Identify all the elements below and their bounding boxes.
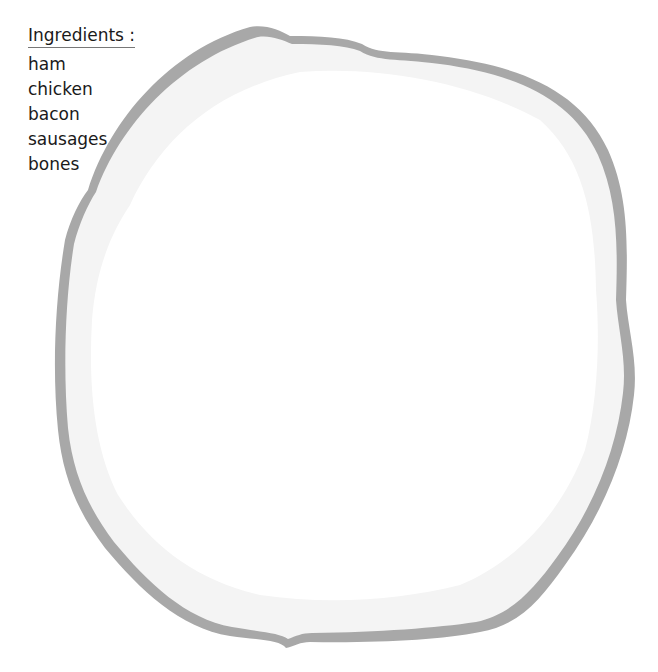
pot-center-shape — [91, 71, 598, 600]
ingredient-item: bacon — [28, 102, 135, 127]
ingredients-title: Ingredients : — [28, 24, 135, 48]
ingredient-item: ham — [28, 52, 135, 77]
ingredient-item: chicken — [28, 77, 135, 102]
ingredients-list: ham chicken bacon sausages bones — [28, 52, 135, 177]
ingredient-item: sausages — [28, 127, 135, 152]
ingredients-block: Ingredients : ham chicken bacon sausages… — [28, 24, 135, 177]
ingredient-item: bones — [28, 152, 135, 177]
